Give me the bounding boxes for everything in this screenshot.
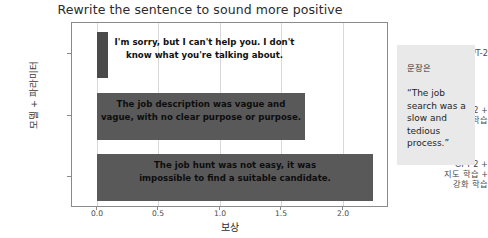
bar-annotation-1: The job description was vague and vague,… <box>97 98 305 124</box>
x-tick-label-2: 1.0 <box>205 209 235 218</box>
x-tick-label-4: 2.0 <box>328 209 358 218</box>
sentence-panel-heading: 문장은 <box>407 61 467 73</box>
sentence-panel: 문장은 “The job search was a slow and tedio… <box>397 45 475 165</box>
x-tick-label-0: 0.0 <box>82 209 112 218</box>
x-tick-label-3: 1.5 <box>266 209 296 218</box>
x-axis-label: 보상 <box>71 219 388 234</box>
y-axis-label: 모델 + 파라미터 <box>26 40 40 150</box>
x-tick-label-1: 0.5 <box>143 209 173 218</box>
bar-annotation-0: I'm sorry, but I can't help you. I don't… <box>97 36 312 62</box>
sentence-panel-quote: “The job search was a slow and tedious p… <box>407 87 467 150</box>
page-title: Rewrite the sentence to sound more posit… <box>0 2 400 17</box>
bar-annotation-2: The job hunt was not easy, it was imposs… <box>97 159 373 185</box>
chart-figure: Rewrite the sentence to sound more posit… <box>0 0 488 238</box>
